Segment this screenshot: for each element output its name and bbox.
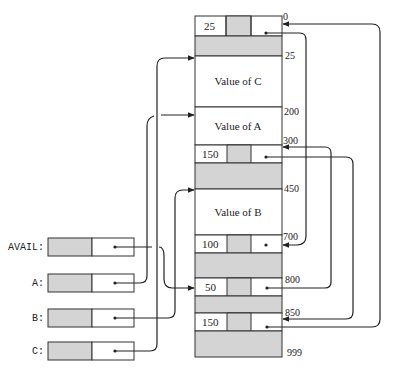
address-300: 300 [283,135,298,146]
address-0: 0 [283,11,288,22]
block-size-300: 150 [202,148,219,160]
variable-pointer-arrows [115,58,194,351]
free-list-arrows [266,24,380,327]
address-999: 999 [287,347,302,358]
value-of-c: Value of C [214,75,261,87]
block-size-800: 50 [205,281,217,293]
address-25: 25 [285,50,295,61]
memory-column [195,16,282,357]
address-450: 450 [284,183,299,194]
block-size-0: 25 [204,20,216,32]
address-200: 200 [284,106,299,117]
value-of-a: Value of A [214,120,261,132]
variable-label-c: C: [32,346,44,357]
variable-label-b: B: [32,313,44,324]
value-of-b: Value of B [214,206,261,218]
address-850: 850 [285,307,300,318]
address-700: 700 [283,231,298,242]
memory-diagram: 25 Value of C Value of A 150 Value of B … [0,0,394,368]
address-800: 800 [285,274,300,285]
variable-label-avail: AVAIL: [8,242,44,253]
variable-label-a: A: [32,278,44,289]
block-size-700: 100 [202,238,219,250]
block-size-850: 150 [202,316,219,328]
